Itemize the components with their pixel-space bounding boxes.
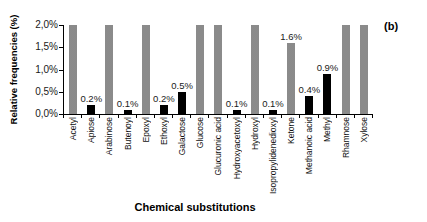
x-category-label: Galactose bbox=[177, 117, 187, 155]
x-category-label: Hydroxyacetoxyl bbox=[232, 117, 242, 179]
x-tick-mark bbox=[245, 115, 246, 118]
bar-column: 0.2% bbox=[82, 25, 100, 114]
x-category-label: Hydroxyl bbox=[250, 117, 260, 150]
x-category-cell: Methyl bbox=[318, 117, 336, 209]
bar-column: 0.1% bbox=[119, 25, 137, 114]
bar-column: 0.9% bbox=[318, 25, 336, 114]
y-tick-label: 2,0% bbox=[18, 19, 58, 31]
x-category-label: Apiose bbox=[86, 117, 96, 143]
dotted-bar bbox=[342, 25, 350, 114]
x-category-cell: Ethoxyl bbox=[155, 117, 173, 209]
bar-column: 0.2% bbox=[155, 25, 173, 114]
x-category-cell: Butenoyl bbox=[119, 117, 137, 209]
x-category-cell: Glucuronic acid bbox=[209, 117, 227, 209]
x-tick-mark bbox=[281, 115, 282, 118]
x-category-label: Arabinose bbox=[104, 117, 114, 155]
x-category-labels: AcetylApioseArabinoseButenoylEpoxylEthox… bbox=[64, 117, 373, 209]
dotted-bar bbox=[214, 25, 222, 114]
dotted-bar bbox=[287, 43, 295, 114]
x-tick-mark bbox=[118, 115, 119, 118]
solid-bar bbox=[178, 92, 186, 114]
x-category-label: Glucose bbox=[195, 117, 205, 148]
bar-value-label: 0.1% bbox=[262, 98, 284, 109]
bar-value-label: 1.6% bbox=[280, 31, 302, 42]
bar-value-label: 0.1% bbox=[117, 98, 139, 109]
x-category-label: Epoxyl bbox=[141, 117, 151, 143]
bar-column: 1.6% bbox=[282, 25, 300, 114]
x-category-label: Ethoxyl bbox=[159, 117, 169, 145]
bar-column: 0.5% bbox=[173, 25, 191, 114]
x-category-label: Methanoic acid bbox=[304, 117, 314, 174]
solid-bar bbox=[269, 110, 277, 115]
x-category-cell: Acetyl bbox=[64, 117, 82, 209]
bar-value-label: 0.9% bbox=[317, 62, 339, 73]
x-tick-mark bbox=[81, 115, 82, 118]
bar-value-label: 0.2% bbox=[80, 93, 102, 104]
x-category-label: Isopropylidenedioxyl bbox=[268, 117, 278, 194]
y-tick-mark bbox=[59, 47, 63, 48]
x-tick-mark bbox=[190, 115, 191, 118]
x-tick-mark bbox=[172, 115, 173, 118]
x-category-cell: Glucose bbox=[191, 117, 209, 209]
y-tick-mark bbox=[59, 25, 63, 26]
x-tick-mark bbox=[372, 115, 373, 118]
x-axis-title: Chemical substitutions bbox=[40, 201, 350, 213]
bar-column bbox=[191, 25, 209, 114]
x-tick-mark bbox=[63, 115, 64, 118]
x-category-cell: Galactose bbox=[173, 117, 191, 209]
solid-bar bbox=[160, 105, 168, 114]
x-category-cell: Isopropylidenedioxyl bbox=[264, 117, 282, 209]
x-category-label: Butenoyl bbox=[123, 117, 133, 150]
dotted-bar bbox=[142, 25, 150, 114]
bar-value-label: 0.4% bbox=[298, 84, 320, 95]
x-category-label: Acetyl bbox=[68, 117, 78, 140]
x-tick-mark bbox=[318, 115, 319, 118]
solid-bar bbox=[323, 74, 331, 114]
y-tick-label: 0,5% bbox=[18, 86, 58, 98]
x-category-label: Methyl bbox=[322, 117, 332, 142]
x-category-label: Xylose bbox=[359, 117, 369, 143]
x-tick-mark bbox=[354, 115, 355, 118]
dotted-bar bbox=[196, 25, 204, 114]
x-category-label: Rhamnose bbox=[341, 117, 351, 158]
solid-bar bbox=[233, 110, 241, 115]
bar-column: 0.1% bbox=[228, 25, 246, 114]
bar-value-label: 0.5% bbox=[171, 80, 193, 91]
x-tick-mark bbox=[136, 115, 137, 118]
x-category-cell: Apiose bbox=[82, 117, 100, 209]
y-tick-label: 1,0% bbox=[18, 64, 58, 76]
x-category-cell: Rhamnose bbox=[337, 117, 355, 209]
solid-bar bbox=[124, 110, 132, 115]
y-tick-label: 0,0% bbox=[18, 108, 58, 120]
x-tick-mark bbox=[299, 115, 300, 118]
x-category-cell: Hydroxyacetoxyl bbox=[228, 117, 246, 209]
y-tick-label: 1,5% bbox=[18, 41, 58, 53]
bar-column bbox=[355, 25, 373, 114]
dotted-bar bbox=[105, 25, 113, 114]
bar-value-label: 0.2% bbox=[153, 93, 175, 104]
y-tick-mark bbox=[59, 92, 63, 93]
x-tick-mark bbox=[336, 115, 337, 118]
dotted-bar bbox=[69, 25, 77, 114]
x-tick-mark bbox=[227, 115, 228, 118]
x-tick-mark bbox=[99, 115, 100, 118]
solid-bar bbox=[87, 105, 95, 114]
x-category-cell: Methanoic acid bbox=[300, 117, 318, 209]
y-tick-mark bbox=[59, 70, 63, 71]
x-category-label: Ketone bbox=[286, 117, 296, 144]
x-category-cell: Epoxyl bbox=[137, 117, 155, 209]
x-tick-mark bbox=[154, 115, 155, 118]
dotted-bar bbox=[360, 25, 368, 114]
dotted-bar bbox=[251, 25, 259, 114]
bar-column bbox=[337, 25, 355, 114]
x-category-cell: Ketone bbox=[282, 117, 300, 209]
solid-bar bbox=[305, 96, 313, 114]
bar-value-label: 0.1% bbox=[226, 98, 248, 109]
x-category-label: Glucuronic acid bbox=[213, 117, 223, 176]
x-category-cell: Xylose bbox=[355, 117, 373, 209]
bars-container: 0.2%0.1%0.2%0.5%0.1%0.1%1.6%0.4%0.9% bbox=[64, 25, 373, 114]
x-category-cell: Arabinose bbox=[100, 117, 118, 209]
figure-panel-label: (b) bbox=[384, 20, 398, 32]
x-tick-mark bbox=[208, 115, 209, 118]
bar-chart-figure: Relative frequencies (%) (b) 0.2%0.1%0.2… bbox=[0, 0, 427, 222]
